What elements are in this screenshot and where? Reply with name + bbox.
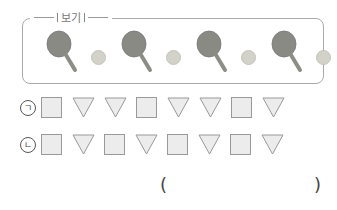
- label-line: [88, 17, 108, 18]
- paddle-icon: [45, 30, 81, 74]
- example-box-label: 보기: [30, 9, 112, 25]
- square-shape: [136, 97, 157, 118]
- answer-blank[interactable]: [175, 174, 310, 196]
- triangle-shape: [72, 134, 95, 155]
- square-shape: [41, 134, 62, 155]
- ball-icon: [166, 50, 181, 65]
- ball-icon: [241, 50, 256, 65]
- answer-close-paren: ): [314, 174, 321, 195]
- triangle-shape: [135, 134, 158, 155]
- label-bar: [84, 13, 85, 22]
- example-pattern: [45, 30, 337, 74]
- paddle-icon: [195, 30, 231, 74]
- square-shape: [104, 134, 125, 155]
- triangle-shape: [261, 134, 284, 155]
- label-bar: [57, 13, 58, 22]
- triangle-shape: [104, 97, 127, 118]
- triangle-shape: [167, 97, 190, 118]
- choice-row-b: ㄴ: [20, 134, 293, 155]
- choice-row-a: ㄱ: [20, 97, 294, 118]
- answer-open-paren: (: [160, 174, 167, 195]
- paddle-icon: [270, 30, 306, 74]
- triangle-shape: [72, 97, 95, 118]
- paddle-icon: [120, 30, 156, 74]
- label-line: [34, 17, 54, 18]
- triangle-shape: [198, 134, 221, 155]
- ball-icon: [91, 50, 106, 65]
- choice-label[interactable]: ㄱ: [20, 100, 36, 116]
- square-shape: [41, 97, 62, 118]
- choice-label[interactable]: ㄴ: [20, 137, 36, 153]
- triangle-shape: [199, 97, 222, 118]
- square-shape: [230, 134, 251, 155]
- triangle-shape: [262, 97, 285, 118]
- example-label-text: 보기: [61, 9, 81, 25]
- square-shape: [167, 134, 188, 155]
- square-shape: [231, 97, 252, 118]
- ball-icon: [316, 50, 331, 65]
